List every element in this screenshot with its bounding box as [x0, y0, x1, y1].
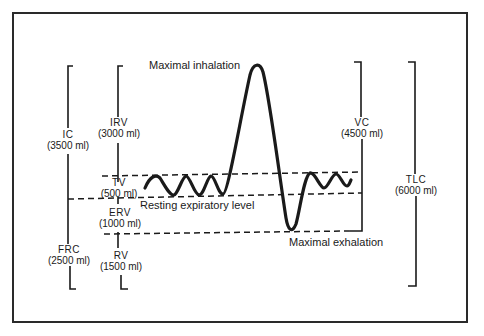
- tlc-name: TLC: [395, 174, 437, 185]
- erv-name: ERV: [99, 207, 141, 218]
- vc-value: (4500 ml): [341, 128, 383, 139]
- rv-value: (1500 ml): [100, 261, 142, 272]
- vc-bracket: [350, 62, 362, 231]
- frc-value: (2500 ml): [48, 255, 90, 266]
- frc-name: FRC: [48, 244, 90, 255]
- tv-name: TV: [101, 177, 138, 188]
- rv-name: RV: [100, 250, 142, 261]
- erv-label: ERV (1000 ml): [98, 207, 142, 229]
- irv-label: IRV (3000 ml): [97, 117, 141, 139]
- irv-value: (3000 ml): [98, 128, 140, 139]
- tv-label: TV (500 ml): [100, 177, 139, 199]
- vc-name: VC: [341, 117, 383, 128]
- tidal-top-line: [102, 172, 362, 176]
- irv-name: IRV: [98, 117, 140, 128]
- rv-label: RV (1500 ml): [99, 250, 143, 272]
- tlc-value: (6000 ml): [395, 185, 437, 196]
- tlc-label: TLC (6000 ml): [394, 174, 438, 196]
- ic-name: IC: [47, 129, 89, 140]
- ic-value: (3500 ml): [47, 140, 89, 151]
- tv-value: (500 ml): [101, 188, 138, 199]
- max-inhalation-label: Maximal inhalation: [149, 59, 240, 71]
- vc-label: VC (4500 ml): [340, 117, 384, 139]
- max-exhalation-line: [104, 231, 350, 234]
- resting-expiratory-label: Resting expiratory level: [140, 199, 254, 211]
- erv-value: (1000 ml): [99, 218, 141, 229]
- spirogram-diagram: [0, 0, 484, 336]
- max-exhalation-label: Maximal exhalation: [289, 236, 383, 248]
- ic-label: IC (3500 ml): [46, 129, 90, 151]
- frc-label: FRC (2500 ml): [47, 244, 91, 266]
